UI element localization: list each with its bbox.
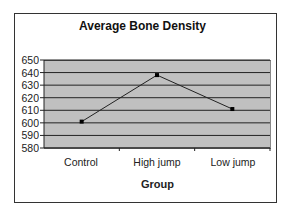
x-axis-label: Group xyxy=(0,178,285,190)
x-tick-low-jump: Low jump xyxy=(193,156,273,168)
data-point xyxy=(80,120,84,124)
data-markers xyxy=(80,73,235,124)
data-point xyxy=(230,107,234,111)
x-tick-control: Control xyxy=(41,156,121,168)
data-point xyxy=(155,73,159,77)
series-line xyxy=(82,75,233,122)
x-tick-high-jump: High jump xyxy=(117,156,197,168)
